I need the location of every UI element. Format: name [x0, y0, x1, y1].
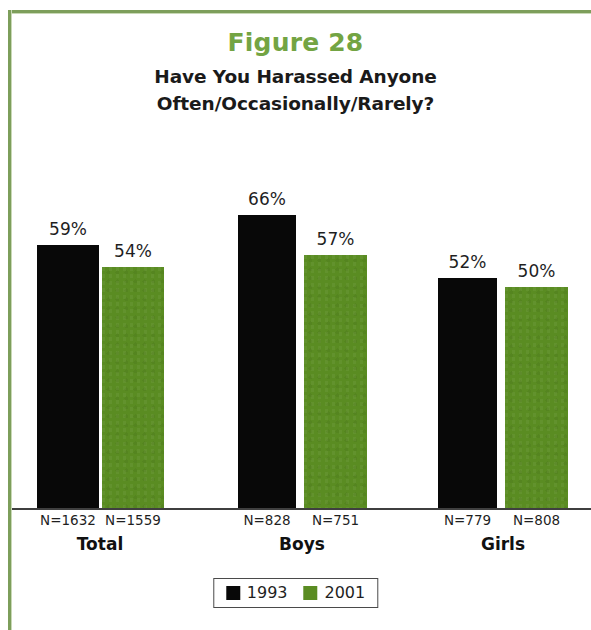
bar-boys-2001 — [304, 255, 367, 508]
x-axis-baseline — [12, 508, 591, 510]
bar-value-label: 54% — [102, 241, 164, 261]
group-label-total: Total — [30, 534, 170, 554]
legend-label-2001: 2001 — [325, 583, 366, 602]
bar-sample-size-label: N=1559 — [90, 512, 176, 528]
legend-item-1993: 1993 — [226, 583, 288, 602]
legend-swatch-2001-icon — [304, 586, 318, 600]
bar-boys-1993 — [238, 215, 296, 508]
group-label-boys: Boys — [232, 534, 372, 554]
bar-value-label: 59% — [37, 219, 99, 239]
legend-item-2001: 2001 — [304, 583, 366, 602]
bar-value-label: 50% — [505, 261, 568, 281]
bar-value-label: 57% — [304, 229, 367, 249]
figure-card: Figure 28 Have You Harassed Anyone Often… — [0, 0, 591, 630]
legend-swatch-1993-icon — [226, 586, 240, 600]
bar-sample-size-label: N=808 — [493, 512, 580, 528]
bar-value-label: 66% — [238, 189, 296, 209]
legend-label-1993: 1993 — [247, 583, 288, 602]
bar-girls-1993 — [438, 278, 497, 508]
bar-sample-size-label: N=751 — [292, 512, 379, 528]
chart-legend: 1993 2001 — [213, 578, 378, 608]
bar-girls-2001 — [505, 287, 568, 508]
bar-value-label: 52% — [438, 252, 497, 272]
bar-chart-plot: 59%N=163254%N=155966%N=82857%N=75152%N=7… — [0, 0, 591, 630]
bar-total-1993 — [37, 245, 99, 508]
group-label-girls: Girls — [433, 534, 573, 554]
bar-total-2001 — [102, 267, 164, 508]
